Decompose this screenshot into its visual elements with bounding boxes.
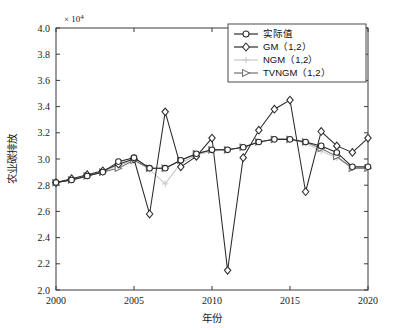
legend-label: NGM（1,2）: [263, 54, 318, 65]
chart-legend: 实际值GM（1,2）NGM（1,2）TVNGM（1,2）: [228, 24, 366, 82]
series-line: [56, 100, 368, 270]
data-point: [100, 169, 106, 175]
data-point: [162, 165, 168, 171]
legend-label: GM（1,2）: [263, 41, 312, 52]
data-point: [350, 164, 356, 170]
y-tick-label: 3.8: [38, 49, 51, 60]
data-point: [334, 150, 340, 156]
y-tick-label: 2.8: [38, 180, 51, 191]
data-point: [318, 143, 324, 149]
y-tick-label: 3.4: [38, 101, 51, 112]
x-axis-title: 年份: [202, 312, 223, 324]
data-point: [178, 163, 184, 171]
data-point: [365, 164, 371, 170]
x-tick-label: 2015: [280, 295, 300, 306]
data-point: [131, 155, 137, 161]
y-tick-label: 2.2: [38, 258, 51, 269]
y-tick-label: 2.4: [38, 232, 51, 243]
data-point: [240, 144, 246, 150]
legend-item-1[interactable]: GM（1,2）: [234, 41, 312, 52]
data-point: [225, 147, 231, 153]
data-point: [287, 96, 293, 104]
data-point: [240, 154, 246, 162]
data-point: [302, 188, 308, 196]
data-point: [162, 108, 168, 116]
x-tick-label: 2000: [46, 295, 66, 306]
data-point: [146, 210, 152, 218]
y-tick-label: 2.6: [38, 206, 51, 217]
data-point: [147, 165, 153, 171]
y-tick-label: 3.2: [38, 127, 51, 138]
y-tick-label: 2.0: [38, 285, 51, 296]
y-axis-title: 农业碳排放: [6, 133, 18, 184]
y-axis-exponent: × 104: [64, 13, 84, 25]
x-tick-label: 2020: [358, 295, 378, 306]
data-point: [53, 180, 59, 186]
data-point: [243, 31, 249, 37]
data-point: [209, 147, 215, 153]
data-series: [53, 96, 371, 274]
data-point: [256, 139, 262, 145]
series-0: [53, 137, 371, 186]
data-point: [303, 139, 309, 145]
data-point: [178, 158, 184, 164]
legend-label: 实际值: [263, 28, 293, 39]
line-chart: 2.02.22.42.62.83.03.23.43.63.84.02000200…: [0, 0, 395, 330]
chart-figure: 2.02.22.42.62.83.03.23.43.63.84.02000200…: [0, 0, 395, 330]
y-tick-label: 4.0: [38, 23, 51, 34]
data-point: [84, 173, 90, 179]
data-point: [194, 151, 200, 157]
x-tick-label: 2010: [202, 295, 222, 306]
x-tick-label: 2005: [124, 295, 144, 306]
y-tick-label: 3.6: [38, 75, 51, 86]
y-tick-label: 3.0: [38, 154, 51, 165]
series-1: [53, 96, 371, 274]
data-point: [224, 267, 230, 275]
data-point: [69, 177, 75, 183]
data-point: [272, 137, 278, 143]
data-point: [287, 137, 293, 143]
legend-label: TVNGM（1,2）: [263, 67, 331, 78]
data-point: [116, 159, 122, 165]
